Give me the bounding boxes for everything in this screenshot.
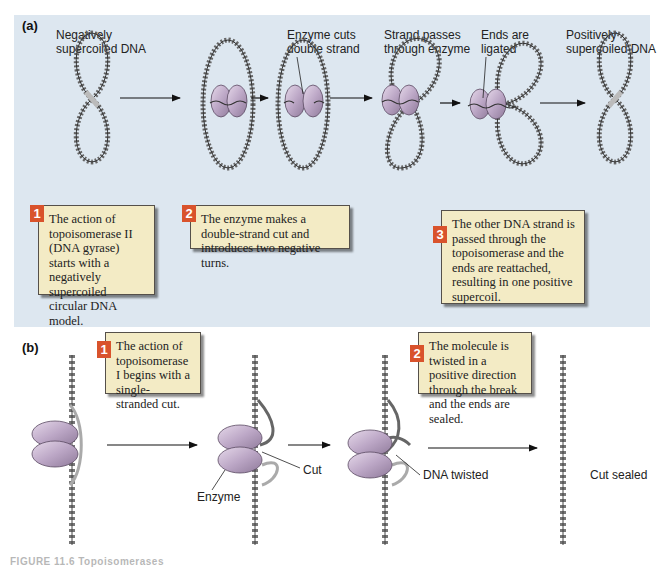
dna-positive-supercoil [599, 33, 631, 162]
panel-b-label: (b) [22, 340, 39, 355]
dna-negative-supercoil [76, 33, 108, 162]
dna-helix-stage-3 [348, 355, 420, 545]
step-b1-text: The action of topoisomerase I begins wit… [116, 339, 190, 411]
enzyme-icon [218, 447, 262, 473]
dna-helix-stage-1 [32, 355, 81, 545]
step-a3-number: 3 [433, 226, 447, 243]
dna-helix-stage-2 [212, 355, 300, 545]
enzyme-icon [348, 452, 392, 478]
leader-line [262, 452, 300, 468]
step-b1-number: 1 [97, 341, 111, 358]
step-a1-box: The action of topoisomerase II (DNA gyra… [38, 205, 155, 295]
enzyme-icon [32, 441, 78, 467]
step-a3-box: The other DNA strand is passed through t… [441, 210, 585, 304]
dna-ligated [468, 43, 541, 164]
step-b2-box: The molecule is twisted in a positive di… [418, 332, 532, 394]
figure-caption: FIGURE 11.6 Topoisomerases [10, 556, 164, 567]
step-a3-text: The other DNA strand is passed through t… [452, 217, 575, 304]
label-enzyme: Enzyme [197, 490, 240, 504]
step-b1-box: The action of topoisomerase I begins wit… [105, 332, 201, 394]
dna-circle-with-enzyme [203, 40, 253, 168]
label-cut: Cut [303, 463, 322, 477]
step-a1-number: 1 [30, 205, 44, 222]
label-cut-sealed: Cut sealed [590, 468, 647, 482]
step-b2-number: 2 [410, 345, 424, 362]
label-dna-twisted: DNA twisted [423, 468, 488, 482]
dna-circle-cut [278, 40, 328, 168]
leader-line [212, 470, 225, 490]
step-a2-number: 2 [182, 205, 196, 222]
dna-strand-passing [382, 38, 439, 168]
step-a2-box: The enzyme makes a double-strand cut and… [190, 205, 350, 249]
